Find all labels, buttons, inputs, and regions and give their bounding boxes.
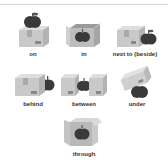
preposition-between: between: [57, 64, 111, 107]
box-apple-between-icon: [59, 64, 109, 100]
box-apple-behind-icon: [11, 64, 55, 100]
label-behind: behind: [6, 101, 60, 107]
preposition-behind: behind: [6, 64, 60, 107]
preposition-through: through: [57, 112, 111, 157]
label-through: through: [57, 151, 111, 157]
box-apple-in-icon: [64, 10, 104, 50]
box-apple-under-icon: [115, 64, 159, 100]
preposition-in: in: [57, 10, 111, 57]
box-apple-on-icon: [13, 10, 53, 50]
preposition-on: on: [6, 10, 60, 57]
label-under: under: [110, 101, 164, 107]
box-apple-through-icon: [62, 112, 106, 150]
label-next-to: next to (beside): [108, 51, 162, 57]
label-on: on: [6, 51, 60, 57]
label-between: between: [57, 101, 111, 107]
preposition-next-to: next to (beside): [108, 10, 162, 57]
label-in: in: [57, 51, 111, 57]
box-apple-next-to-icon: [113, 10, 157, 50]
top-divider: [0, 4, 168, 5]
preposition-under: under: [110, 64, 164, 107]
